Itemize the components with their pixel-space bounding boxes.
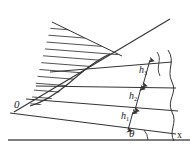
break-edge-wavy-line-upper <box>157 52 160 76</box>
hatch-group <box>20 26 194 117</box>
hatch-top-cap <box>52 22 122 56</box>
layer-boundary-1 <box>26 99 178 111</box>
layer-boundary-3 <box>50 62 172 72</box>
label-h2: h2 <box>129 91 137 102</box>
angle-arc-theta <box>144 130 148 140</box>
label-angle-theta: θ <box>129 128 134 139</box>
label-origin: 0 <box>14 99 20 110</box>
slope-base-line <box>10 113 176 134</box>
label-h3: h3 <box>139 65 147 76</box>
label-axis-x: x <box>177 130 182 140</box>
inclined-flow-diagram: h3 h2 h1 0 θ x <box>0 0 194 154</box>
label-h1: h1 <box>121 111 129 122</box>
break-edge-wavy-line <box>168 50 174 141</box>
diagram-canvas <box>0 0 194 154</box>
